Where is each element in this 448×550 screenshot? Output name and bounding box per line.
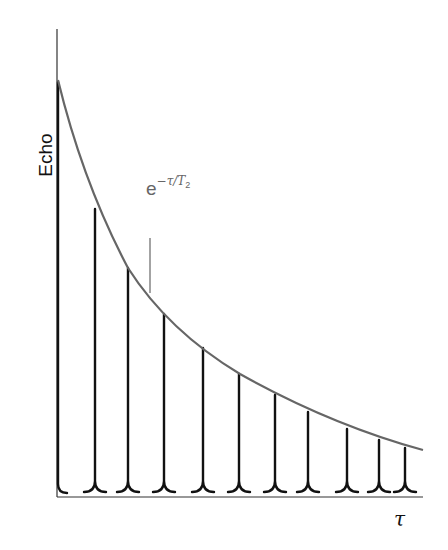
decay-curve xyxy=(58,80,423,450)
echo-5 xyxy=(192,348,214,492)
x-axis-label: τ xyxy=(394,507,405,531)
curve-label-exponent: −τ/T xyxy=(157,174,186,188)
echo-8 xyxy=(297,412,319,492)
echo-3 xyxy=(117,268,139,492)
echo-9 xyxy=(336,429,358,492)
curve-label-subscript: 2 xyxy=(185,180,190,190)
echo-2 xyxy=(84,209,106,492)
echo-4 xyxy=(153,314,175,492)
curve-label-base: e xyxy=(146,178,157,199)
echo-10 xyxy=(368,440,390,492)
decay-curve-label: e−τ/T2 xyxy=(146,178,190,200)
echo-1 xyxy=(58,82,67,493)
y-axis-label: Echo xyxy=(36,125,56,185)
echo-7 xyxy=(264,395,286,492)
echo-11 xyxy=(394,448,416,492)
echo-decay-diagram xyxy=(0,0,448,550)
echo-6 xyxy=(228,374,250,492)
